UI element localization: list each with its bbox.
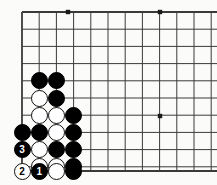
star-point bbox=[158, 114, 162, 118]
move-number-label: 2 bbox=[15, 164, 30, 179]
stone-b-c0r7[interactable] bbox=[14, 124, 31, 141]
move-number-label: 1 bbox=[32, 164, 47, 179]
stone-b-c1r7[interactable] bbox=[31, 124, 48, 141]
go-board-diagram: 321 bbox=[0, 0, 217, 185]
stone-b-c1r4[interactable] bbox=[31, 72, 48, 89]
stone-b-c3r6[interactable] bbox=[65, 107, 82, 124]
stone-w-c2r10[interactable] bbox=[48, 163, 65, 180]
stone-b-move-3[interactable]: 3 bbox=[14, 141, 31, 158]
stone-b-c3r10[interactable] bbox=[65, 163, 82, 180]
stone-w-move-2[interactable]: 2 bbox=[14, 163, 31, 180]
stone-b-c2r8[interactable] bbox=[48, 141, 65, 158]
stone-w-c1r5[interactable] bbox=[31, 90, 48, 107]
stone-w-c2r7[interactable] bbox=[48, 124, 65, 141]
stone-w-c1r8[interactable] bbox=[31, 141, 48, 158]
stone-b-c3r7[interactable] bbox=[65, 124, 82, 141]
stone-b-move-1[interactable]: 1 bbox=[31, 163, 48, 180]
stone-b-c2r5[interactable] bbox=[48, 90, 65, 107]
star-point bbox=[66, 10, 70, 14]
stone-w-c2r6[interactable] bbox=[48, 107, 65, 124]
move-number-label: 3 bbox=[15, 142, 30, 157]
stone-w-c1r6[interactable] bbox=[31, 107, 48, 124]
star-point bbox=[158, 10, 162, 14]
